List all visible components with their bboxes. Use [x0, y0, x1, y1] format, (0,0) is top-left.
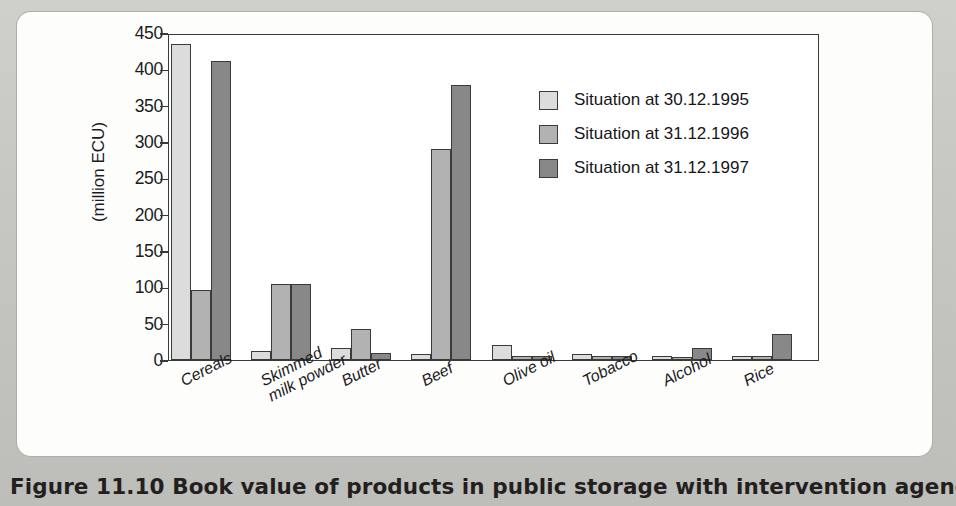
y-axis-tick-label: 50: [117, 314, 163, 335]
bar-group: [251, 35, 331, 360]
legend-item[interactable]: Situation at 31.12.1996: [539, 117, 749, 151]
y-axis-tick-label: 0: [117, 350, 163, 371]
bar[interactable]: [251, 351, 271, 360]
y-axis-tick-label: 450: [117, 23, 163, 44]
legend-item[interactable]: Situation at 31.12.1997: [539, 151, 749, 185]
bar[interactable]: [732, 356, 752, 360]
legend-label: Situation at 31.12.1996: [574, 124, 749, 144]
y-axis-tick-mark: [160, 251, 168, 253]
y-axis-tick-mark: [160, 360, 168, 362]
bar[interactable]: [191, 290, 211, 360]
y-axis-tick-mark: [160, 324, 168, 326]
bar[interactable]: [351, 329, 371, 360]
chart-panel: (million ECU) 05010015020025030035040045…: [17, 12, 932, 456]
legend-swatch-icon: [539, 159, 558, 178]
bar[interactable]: [772, 334, 792, 360]
bar-group: [331, 35, 411, 360]
y-axis-tick-label: 350: [117, 96, 163, 117]
y-axis-tick-mark: [160, 33, 168, 35]
legend-label: Situation at 30.12.1995: [574, 90, 749, 110]
bar-chart: (million ECU) 05010015020025030035040045…: [17, 12, 932, 456]
bar[interactable]: [572, 354, 592, 360]
legend-swatch-icon: [539, 91, 558, 110]
bar[interactable]: [492, 345, 512, 360]
chart-legend: Situation at 30.12.1995Situation at 31.1…: [539, 83, 749, 185]
y-axis-tick-mark: [160, 288, 168, 290]
y-axis-tick-label: 250: [117, 168, 163, 189]
y-axis-tick-label: 200: [117, 205, 163, 226]
bar[interactable]: [431, 149, 451, 360]
legend-item[interactable]: Situation at 30.12.1995: [539, 83, 749, 117]
y-axis-label: (million ECU): [89, 72, 109, 272]
x-axis-label: Rice: [741, 360, 777, 390]
scanned-page-background: (million ECU) 05010015020025030035040045…: [0, 0, 956, 506]
legend-swatch-icon: [539, 125, 558, 144]
y-axis-tick-label: 100: [117, 277, 163, 298]
y-axis-tick-mark: [160, 179, 168, 181]
plot-area: Situation at 30.12.1995Situation at 31.1…: [168, 34, 819, 361]
legend-label: Situation at 31.12.1997: [574, 158, 749, 178]
y-axis-tick-mark: [160, 142, 168, 144]
y-axis-tick-mark: [160, 215, 168, 217]
bar[interactable]: [271, 284, 291, 360]
y-axis-tick-label: 150: [117, 241, 163, 262]
bar[interactable]: [411, 354, 431, 360]
y-axis-tick-label: 400: [117, 59, 163, 80]
x-axis-label: Beef: [419, 360, 456, 390]
y-axis-tick-mark: [160, 106, 168, 108]
bar[interactable]: [211, 61, 231, 360]
bar[interactable]: [652, 356, 672, 360]
y-axis-tick-label: 300: [117, 132, 163, 153]
figure-caption: Figure 11.10 Book value of products in p…: [10, 474, 956, 499]
y-axis-tick-mark: [160, 70, 168, 72]
bar[interactable]: [171, 44, 191, 360]
bar[interactable]: [451, 85, 471, 360]
bar-group: [411, 35, 491, 360]
bar-group: [171, 35, 251, 360]
